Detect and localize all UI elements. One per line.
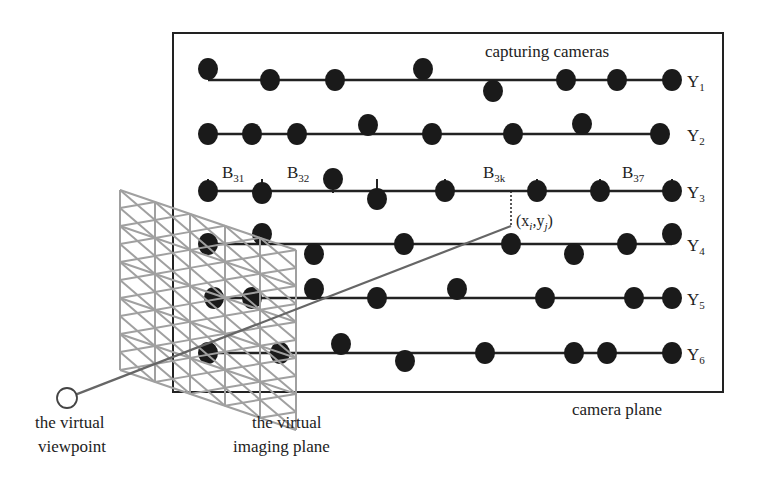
grid-diagonal <box>120 310 155 316</box>
camera-dot <box>323 168 343 190</box>
virtual-viewpoint-label-line1: the virtual <box>35 413 105 432</box>
grid-diagonal <box>120 316 155 346</box>
row-label-y3: Y3 <box>687 183 705 204</box>
camera-dot <box>617 233 637 255</box>
grid-diagonal <box>120 346 155 352</box>
row-labels: Y1Y2Y3Y4Y5Y6 <box>687 72 705 366</box>
grid-diagonal <box>225 310 260 316</box>
camera-row-y6 <box>198 333 682 372</box>
camera-dot <box>325 69 345 91</box>
grid-diagonal <box>260 292 296 322</box>
block-label-b3k: B3k <box>483 163 506 184</box>
grid-diagonal <box>190 226 225 232</box>
light-field-camera-diagram: capturing cameras camera plane the virtu… <box>0 0 757 491</box>
grid-diagonal <box>120 274 155 280</box>
camera-dot <box>475 342 495 364</box>
camera-dot <box>503 123 523 145</box>
camera-dot <box>242 123 262 145</box>
block-labels: B31B32B3kB37 <box>222 163 645 184</box>
camera-dot <box>198 58 218 80</box>
row-label-y4: Y4 <box>687 236 705 257</box>
intersection-point-label: (xi,yj) <box>516 212 553 232</box>
camera-row-y3 <box>198 168 682 210</box>
camera-dot <box>501 233 521 255</box>
virtual-viewpoint-label-line2: viewpoint <box>38 437 106 456</box>
grid-diagonal <box>225 244 260 274</box>
camera-dot <box>564 243 584 265</box>
camera-dot <box>395 350 415 372</box>
grid-diagonal <box>120 238 155 244</box>
camera-plane-label: camera plane <box>572 400 662 419</box>
camera-dot <box>662 180 682 202</box>
row-label-y2: Y2 <box>687 126 705 147</box>
grid-diagonal <box>120 244 155 274</box>
camera-dot <box>447 278 467 300</box>
camera-row-y4 <box>198 223 682 265</box>
camera-dot <box>198 123 218 145</box>
grid-diagonal <box>120 208 155 238</box>
camera-dot <box>535 287 555 309</box>
camera-dot <box>607 69 627 91</box>
camera-dot <box>331 333 351 355</box>
camera-dot <box>556 69 576 91</box>
block-label-b32: B32 <box>287 163 309 184</box>
row-label-y1: Y1 <box>687 72 705 93</box>
camera-dot <box>564 342 584 364</box>
camera-dot <box>358 114 378 136</box>
grid-diagonal <box>120 202 155 208</box>
row-label-y6: Y6 <box>687 345 705 366</box>
grid-diagonal <box>190 370 225 376</box>
grid-diagonal <box>260 256 296 286</box>
grid-diagonal <box>225 274 260 280</box>
grid-diagonal <box>260 250 296 256</box>
grid-diagonal <box>190 262 225 268</box>
grid-diagonal <box>260 364 296 394</box>
camera-row-y1 <box>198 58 682 102</box>
grid-diagonal <box>225 352 260 382</box>
grid-diagonal <box>260 394 296 400</box>
camera-dot <box>590 180 610 202</box>
camera-dot <box>624 287 644 309</box>
camera-dot <box>572 113 592 135</box>
camera-rows <box>198 58 682 372</box>
camera-dot <box>367 188 387 210</box>
camera-dot <box>662 69 682 91</box>
camera-dot <box>304 278 324 300</box>
camera-dot <box>260 69 280 91</box>
virtual-imaging-plane-label-line2: imaging plane <box>233 437 330 456</box>
camera-dot <box>527 180 547 202</box>
grid-horizontal-line <box>120 262 296 322</box>
camera-row-y2 <box>198 113 670 145</box>
virtual-imaging-plane-grid <box>120 190 296 430</box>
block-label-b37: B37 <box>622 163 645 184</box>
camera-dot <box>662 223 682 245</box>
grid-diagonal <box>225 382 260 388</box>
row-label-y5: Y5 <box>687 290 705 311</box>
camera-dot <box>422 123 442 145</box>
camera-dot <box>483 80 503 102</box>
grid-diagonal <box>190 376 225 406</box>
grid-diagonal <box>260 286 296 292</box>
camera-dot <box>662 287 682 309</box>
camera-dot <box>367 287 387 309</box>
camera-dot <box>413 58 433 80</box>
camera-dot <box>597 342 617 364</box>
camera-plane-box <box>173 33 723 392</box>
camera-dot <box>650 123 670 145</box>
grid-diagonal <box>260 322 296 328</box>
grid-diagonal <box>120 280 155 310</box>
camera-dot <box>394 233 414 255</box>
virtual-imaging-plane-label-line1: the virtual <box>252 413 322 432</box>
camera-dot <box>435 180 455 202</box>
camera-dot <box>287 123 307 145</box>
camera-dot <box>662 342 682 364</box>
capturing-cameras-label: capturing cameras <box>485 42 609 61</box>
camera-plane-rect <box>173 33 723 392</box>
grid-diagonal <box>225 346 260 352</box>
grid-diagonal <box>190 304 225 334</box>
virtual-viewpoint-circle <box>57 388 77 408</box>
camera-dot <box>304 243 324 265</box>
camera-dot <box>252 182 272 204</box>
camera-dot <box>198 180 218 202</box>
block-label-b31: B31 <box>222 163 244 184</box>
